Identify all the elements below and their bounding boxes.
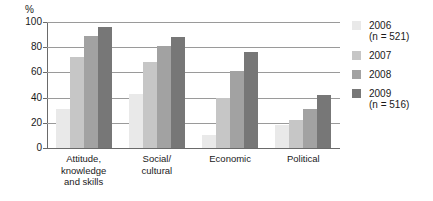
bar bbox=[171, 37, 185, 148]
gridline-0 bbox=[47, 148, 340, 149]
category-label-line: Social/ bbox=[120, 153, 193, 165]
bar-group bbox=[47, 22, 120, 148]
category-label: Attitude,knowledgeand skills bbox=[47, 153, 120, 188]
category-label-line: and skills bbox=[47, 176, 120, 188]
bar-group bbox=[120, 22, 193, 148]
bar-chart: % 100806040200 Attitude,knowledgeand ski… bbox=[0, 0, 433, 201]
legend-item[interactable]: 2006(n = 521) bbox=[352, 20, 433, 43]
bar bbox=[303, 109, 317, 148]
category-label-line: Political bbox=[267, 153, 340, 165]
legend-label: 2009 bbox=[369, 88, 433, 99]
category-label-line: knowledge bbox=[47, 165, 120, 177]
bar bbox=[289, 120, 303, 148]
legend-swatch-icon bbox=[352, 89, 361, 98]
category-label-line: Attitude, bbox=[47, 153, 120, 165]
legend-label: 2008 bbox=[369, 69, 433, 80]
legend-swatch-icon bbox=[352, 51, 361, 60]
y-tick-label-40: 40 bbox=[2, 93, 42, 103]
legend-swatch-icon bbox=[352, 21, 361, 30]
y-tick-label-0: 0 bbox=[2, 143, 42, 153]
bar bbox=[216, 98, 230, 148]
bar-group bbox=[267, 22, 340, 148]
legend: 2006(n = 521)200720082009(n = 516) bbox=[352, 20, 433, 118]
legend-label: 2007 bbox=[369, 50, 433, 61]
category-label-line: cultural bbox=[120, 165, 193, 177]
y-tick-label-100: 100 bbox=[2, 17, 42, 27]
bar bbox=[317, 95, 331, 148]
legend-swatch-icon bbox=[352, 70, 361, 79]
bar bbox=[143, 62, 157, 148]
bar bbox=[98, 27, 112, 148]
legend-item[interactable]: 2008 bbox=[352, 69, 433, 81]
y-tick-label-20: 20 bbox=[2, 118, 42, 128]
y-tick-label-80: 80 bbox=[2, 42, 42, 52]
legend-item[interactable]: 2009(n = 516) bbox=[352, 88, 433, 111]
bar-group bbox=[194, 22, 267, 148]
y-axis-unit-label: % bbox=[25, 4, 34, 15]
bar bbox=[70, 57, 84, 148]
legend-sublabel: (n = 516) bbox=[369, 99, 433, 111]
category-label: Political bbox=[267, 153, 340, 165]
category-label: Social/cultural bbox=[120, 153, 193, 176]
bar bbox=[56, 109, 70, 148]
category-label-line: Economic bbox=[194, 153, 267, 165]
plot-area bbox=[47, 22, 340, 148]
bar bbox=[84, 36, 98, 148]
legend-label: 2006 bbox=[369, 20, 433, 31]
bar bbox=[230, 71, 244, 148]
bar bbox=[157, 46, 171, 148]
legend-item[interactable]: 2007 bbox=[352, 50, 433, 62]
category-label: Economic bbox=[194, 153, 267, 165]
legend-sublabel: (n = 521) bbox=[369, 31, 433, 43]
bar bbox=[244, 52, 258, 148]
y-tick-label-60: 60 bbox=[2, 67, 42, 77]
bar bbox=[275, 125, 289, 148]
bar bbox=[129, 94, 143, 148]
bar bbox=[202, 135, 216, 148]
